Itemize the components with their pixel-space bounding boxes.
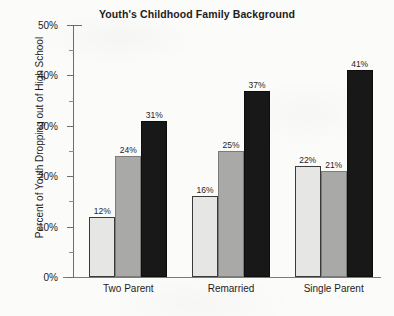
y-tick-label: 50% xyxy=(38,20,58,31)
y-tick-label: 0% xyxy=(44,272,58,283)
chart-figure: Youth's Childhood Family Background Perc… xyxy=(0,0,394,316)
y-tick-10: 10% xyxy=(67,227,74,228)
bar-single-parent-series-1: 22% xyxy=(295,166,321,277)
bar-remarried-series-1: 16% xyxy=(192,196,218,277)
bar-value-label: 21% xyxy=(325,160,342,170)
x-category-label-two-parent: Two Parent xyxy=(103,283,154,294)
y-tick-40: 40% xyxy=(67,75,74,76)
bar-value-label: 16% xyxy=(196,185,213,195)
y-tick-50: 50% xyxy=(67,25,74,26)
bar-value-label: 41% xyxy=(351,59,368,69)
bar-single-parent-series-3: 41% xyxy=(347,70,373,277)
chart-title: Youth's Childhood Family Background xyxy=(0,8,394,20)
x-category-label-remarried: Remarried xyxy=(208,283,255,294)
y-tick-label: 30% xyxy=(38,120,58,131)
bar-two-parent-series-1: 12% xyxy=(89,217,115,277)
bar-value-label: 25% xyxy=(222,140,239,150)
bar-value-label: 24% xyxy=(120,145,137,155)
bar-single-parent-series-2: 21% xyxy=(321,171,347,277)
y-tick-30: 30% xyxy=(67,126,74,127)
bar-two-parent-series-3: 31% xyxy=(141,121,167,277)
x-axis-line xyxy=(63,277,381,278)
y-tick-label: 20% xyxy=(38,171,58,182)
y-minor-tick xyxy=(69,151,74,152)
y-minor-tick xyxy=(69,50,74,51)
bar-remarried-series-3: 37% xyxy=(244,91,270,277)
y-minor-tick xyxy=(69,101,74,102)
y-tick-label: 10% xyxy=(38,221,58,232)
y-tick-20: 20% xyxy=(67,176,74,177)
bar-value-label: 22% xyxy=(299,155,316,165)
bar-two-parent-series-2: 24% xyxy=(115,156,141,277)
bar-value-label: 37% xyxy=(248,80,265,90)
y-axis-top-cap xyxy=(73,25,82,26)
bar-value-label: 12% xyxy=(94,206,111,216)
x-category-label-single-parent: Single Parent xyxy=(304,283,364,294)
y-minor-tick xyxy=(69,252,74,253)
y-minor-tick xyxy=(69,201,74,202)
bar-value-label: 31% xyxy=(146,110,163,120)
y-tick-label: 40% xyxy=(38,70,58,81)
plot-area: 0%10%20%30%40%50% 12%24%31%16%25%37%22%2… xyxy=(73,25,381,277)
bar-remarried-series-2: 25% xyxy=(218,151,244,277)
y-tick-0: 0% xyxy=(67,277,74,278)
